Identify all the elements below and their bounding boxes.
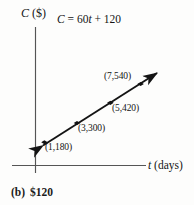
y-axis-label-unit: ($) xyxy=(32,6,46,20)
y-axis-label-variable: C xyxy=(21,6,29,20)
equation-rhs-post: + 120 xyxy=(92,13,122,25)
point-label-3-300: (3,300) xyxy=(78,124,105,134)
point-label-7-540: (7,540) xyxy=(104,72,131,82)
graph-canvas xyxy=(0,0,194,178)
equation-lhs: C xyxy=(57,13,65,25)
x-axis-label: t (days) xyxy=(148,160,183,172)
x-axis-label-variable: t xyxy=(148,159,151,171)
y-axis-label: C ($) xyxy=(21,7,46,19)
figure-panel: C ($) t (days) C = 60t + 120 (1,180) (3,… xyxy=(0,0,194,205)
caption-tag: (b) xyxy=(11,186,25,198)
equation-rhs-pre: = 60 xyxy=(65,13,89,25)
caption-text: $120 xyxy=(30,186,53,198)
figure-caption: (b)$120 xyxy=(11,186,53,198)
point-label-5-420: (5,420) xyxy=(112,104,139,114)
point-label-1-180: (1,180) xyxy=(45,143,72,153)
equation-annotation: C = 60t + 120 xyxy=(57,14,121,26)
x-axis-label-unit: (days) xyxy=(154,159,183,171)
